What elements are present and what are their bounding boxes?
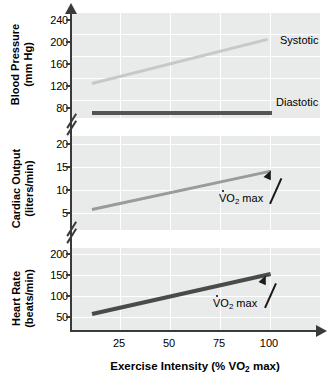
y-axis-title-cardiac-output: Cardiac Output (liters/min) bbox=[10, 137, 35, 241]
ytick-mark bbox=[66, 274, 71, 276]
ytick-mark bbox=[66, 253, 71, 255]
ytick-mark bbox=[66, 41, 71, 43]
gridline-vertical bbox=[120, 248, 121, 330]
v-dot-glyph: V bbox=[213, 297, 220, 309]
ytick-mark bbox=[66, 189, 71, 191]
gridline-vertical bbox=[270, 12, 271, 118]
ytick-mark bbox=[66, 19, 71, 21]
vo2max-arrow-head-heart-rate bbox=[259, 274, 270, 285]
vo2max-arrow-head-cardiac bbox=[264, 169, 275, 180]
y-axis-title-hr-line1: Heart Rate bbox=[10, 271, 22, 326]
gridline-horizontal bbox=[72, 275, 320, 276]
gridline-horizontal bbox=[72, 167, 320, 168]
x-axis-title-suffix: max) bbox=[250, 360, 280, 372]
y-axis-title-bp-line1: Blood Pressure bbox=[9, 24, 21, 105]
series-label-systolic: Systotic bbox=[280, 34, 319, 46]
ytick-mark bbox=[66, 85, 71, 87]
gridline-horizontal bbox=[72, 190, 320, 191]
y-axis-line bbox=[70, 12, 72, 331]
ytick-mark bbox=[66, 166, 71, 168]
gridline-vertical bbox=[220, 248, 221, 330]
series-line-diastolic bbox=[92, 111, 272, 114]
annotation-suffix: max bbox=[233, 297, 257, 309]
v-dot-glyph: V bbox=[219, 192, 226, 204]
ytick-mark bbox=[66, 63, 71, 65]
gridline-horizontal bbox=[72, 213, 320, 214]
exercise-physiology-figure: Systotic Diastotic bbox=[0, 0, 333, 385]
annotation-suffix: max bbox=[239, 192, 263, 204]
gridline-vertical bbox=[270, 136, 271, 230]
panel-heart-rate bbox=[72, 248, 320, 330]
gridline-vertical bbox=[270, 248, 271, 330]
gridline-vertical bbox=[220, 12, 221, 118]
x-axis-title: Exercise Intensity (% VO2 max) bbox=[60, 360, 330, 374]
gridline-vertical bbox=[170, 248, 171, 330]
annotation-o: O bbox=[226, 192, 235, 204]
gridline-horizontal bbox=[72, 296, 320, 297]
ytick-mark bbox=[66, 316, 71, 318]
xtick-50: 50 bbox=[149, 337, 189, 349]
y-axis-title-hr-line2: (beats/min) bbox=[22, 269, 34, 328]
gridline-vertical bbox=[120, 136, 121, 230]
panel-blood-pressure: Systotic Diastotic bbox=[72, 12, 320, 118]
vo2max-arrow-shaft-cardiac bbox=[269, 178, 282, 204]
ytick-mark bbox=[66, 295, 71, 297]
ytick-mark bbox=[66, 143, 71, 145]
panel-cardiac-output bbox=[72, 136, 320, 230]
annotation-vo2max-heart-rate: VO2 max bbox=[213, 297, 257, 311]
y-axis-title-blood-pressure: Blood Pressure (mm Hg) bbox=[9, 13, 34, 117]
x-axis-line bbox=[70, 330, 318, 332]
x-axis-title-prefix: Exercise Intensity (% VO bbox=[110, 360, 245, 372]
xtick-75: 75 bbox=[199, 337, 239, 349]
x-axis-arrowhead bbox=[316, 325, 327, 337]
y-axis-title-heart-rate: Heart Rate (beats/min) bbox=[10, 249, 35, 349]
y-axis-title-co-line2: (liters/min) bbox=[22, 160, 34, 216]
y-axis-title-bp-line2: (mm Hg) bbox=[21, 42, 33, 87]
series-label-diastolic: Diastotic bbox=[276, 96, 318, 108]
gridline-horizontal bbox=[72, 254, 320, 255]
gridline-horizontal bbox=[72, 12, 320, 13]
xtick-100: 100 bbox=[249, 337, 289, 349]
gridline-vertical bbox=[170, 136, 171, 230]
ytick-mark bbox=[66, 107, 71, 109]
gridline-vertical bbox=[120, 12, 121, 118]
gridline-horizontal bbox=[72, 317, 320, 318]
annotation-o: O bbox=[220, 297, 229, 309]
ytick-mark bbox=[66, 212, 71, 214]
y-axis-title-co-line1: Cardiac Output bbox=[10, 149, 22, 228]
xtick-25: 25 bbox=[99, 337, 139, 349]
annotation-vo2max-cardiac-output: VO2 max bbox=[219, 192, 263, 206]
gridline-horizontal bbox=[72, 144, 320, 145]
